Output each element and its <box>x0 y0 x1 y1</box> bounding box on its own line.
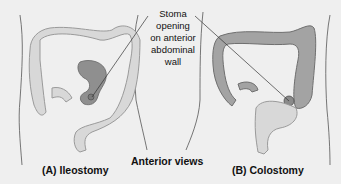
panel-a-colon <box>29 26 140 152</box>
callout-line-4: abdominal <box>147 44 199 56</box>
caption-anterior-views: Anterior views <box>131 155 203 167</box>
callout-line-1: Stoma <box>147 8 199 20</box>
panel-b-rectum <box>255 101 297 154</box>
stoma-callout-label: Stoma opening on anterior abdominal wall <box>147 8 199 68</box>
callout-line-2: opening <box>147 20 199 32</box>
caption-ileostomy: (A) Ileostomy <box>42 164 109 176</box>
callout-line-5: wall <box>147 56 199 68</box>
panel-b-colon <box>213 26 316 109</box>
caption-colostomy: (B) Colostomy <box>232 164 304 176</box>
callout-line-3: on anterior <box>147 32 199 44</box>
ostomy-diagram: Stoma opening on anterior abdominal wall… <box>0 0 341 184</box>
